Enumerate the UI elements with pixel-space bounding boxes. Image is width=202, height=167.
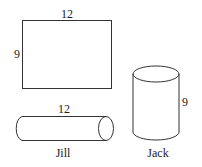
jack-cylinder: 9 Jack — [133, 66, 188, 160]
sheet-height-label: 9 — [14, 47, 20, 61]
jack-name-label: Jack — [147, 146, 168, 160]
sheet-rectangle — [23, 21, 112, 89]
jill-cylinder-body — [16, 117, 106, 141]
paper-sheet: 12 9 — [14, 7, 112, 89]
jack-height-label: 9 — [182, 95, 188, 109]
diagram: 12 9 12 Jill 9 Jack — [0, 0, 202, 167]
jill-cylinder-end — [99, 117, 114, 141]
jill-name-label: Jill — [56, 146, 71, 160]
sheet-width-label: 12 — [61, 7, 73, 21]
jill-length-label: 12 — [58, 102, 70, 116]
jill-cylinder: 12 Jill — [16, 102, 113, 160]
jack-cylinder-body — [133, 74, 179, 140]
jack-cylinder-top — [133, 66, 179, 82]
